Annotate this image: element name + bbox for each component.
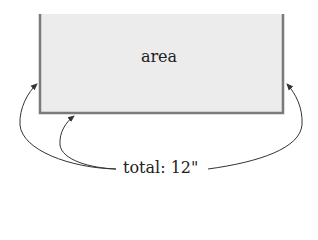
total-label: total: 12": [123, 158, 198, 177]
bottom-side-arrow: [60, 116, 116, 169]
area-label: area: [0, 47, 318, 66]
